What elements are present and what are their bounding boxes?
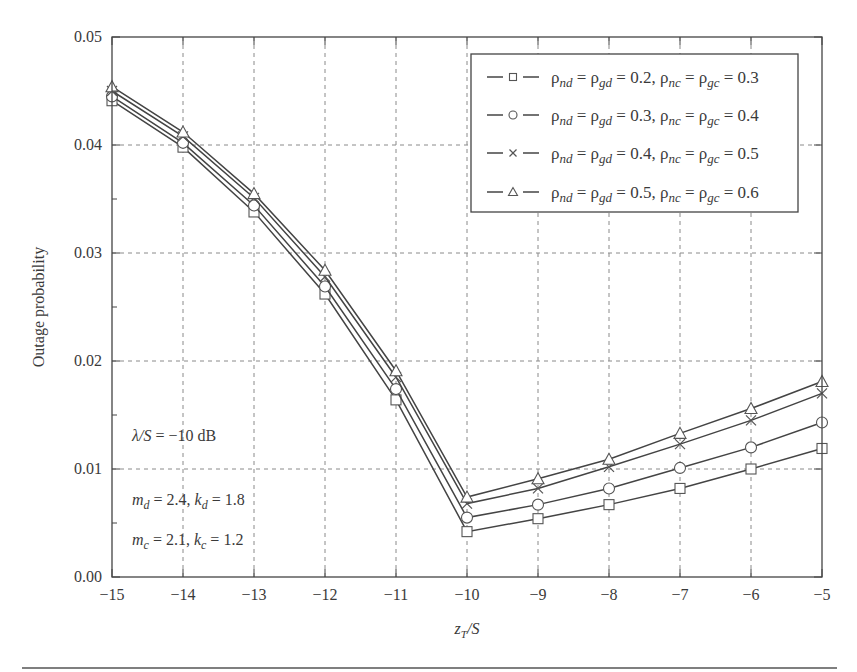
x-tick-label: −8 (600, 586, 617, 603)
x-tick-label: −14 (170, 586, 195, 603)
annotation-md-kd: md = 2.4, kd = 1.8 (132, 491, 245, 512)
square-marker-icon (675, 483, 685, 493)
y-axis-label: Outage probability (30, 247, 48, 367)
square-marker-icon (510, 74, 517, 81)
x-axis-label: zT/S (454, 620, 480, 640)
circle-marker-icon (533, 499, 544, 510)
legend-label: ρnd = ρgd = 0.5, ρnc = ρgc = 0.6 (551, 183, 759, 205)
y-tick-label: 0.00 (74, 568, 102, 585)
x-tick-label: −11 (384, 586, 408, 603)
circle-marker-icon (604, 483, 615, 494)
x-tick-label: −7 (671, 586, 688, 603)
outage-probability-chart: 0.000.010.020.030.040.05 −15−14−13−12−11… (0, 0, 857, 672)
legend: ρnd = ρgd = 0.2, ρnc = ρgc = 0.3ρnd = ρg… (471, 54, 798, 212)
x-tick-label: −5 (813, 586, 830, 603)
circle-marker-icon (509, 111, 517, 119)
circle-marker-icon (675, 462, 686, 473)
x-tick-label: −6 (742, 586, 759, 603)
square-marker-icon (604, 500, 614, 510)
circle-marker-icon (462, 512, 473, 523)
square-marker-icon (462, 527, 472, 537)
annotation-mc-kc: mc = 2.1, kc = 1.2 (132, 531, 243, 552)
annotation-lambda: λ/S = −10 dB (131, 427, 216, 444)
y-tick-label: 0.05 (74, 28, 102, 45)
parameter-annotations: λ/S = −10 dB md = 2.4, kd = 1.8 mc = 2.1… (131, 427, 245, 552)
circle-marker-icon (746, 442, 757, 453)
y-tick-label: 0.04 (74, 136, 102, 153)
triangle-marker-icon (674, 427, 686, 438)
x-axis-tick-labels: −15−14−13−12−11−10−9−8−7−6−5 (99, 586, 830, 603)
y-tick-label: 0.03 (74, 244, 102, 261)
square-marker-icon (533, 514, 543, 524)
x-tick-label: −15 (99, 586, 124, 603)
legend-label: ρnd = ρgd = 0.3, ρnc = ρgc = 0.4 (551, 106, 759, 128)
square-marker-icon (746, 464, 756, 474)
x-tick-label: −12 (312, 586, 337, 603)
y-axis-tick-labels: 0.000.010.020.030.040.05 (74, 28, 102, 585)
y-tick-label: 0.02 (74, 352, 102, 369)
legend-label: ρnd = ρgd = 0.2, ρnc = ρgc = 0.3 (551, 68, 759, 90)
x-tick-label: −13 (241, 586, 266, 603)
x-tick-label: −10 (454, 586, 479, 603)
triangle-marker-icon (745, 403, 757, 414)
y-tick-label: 0.01 (74, 460, 102, 477)
legend-label: ρnd = ρgd = 0.4, ρnc = ρgc = 0.5 (551, 144, 759, 166)
x-tick-label: −9 (529, 586, 546, 603)
triangle-marker-icon (603, 453, 615, 464)
